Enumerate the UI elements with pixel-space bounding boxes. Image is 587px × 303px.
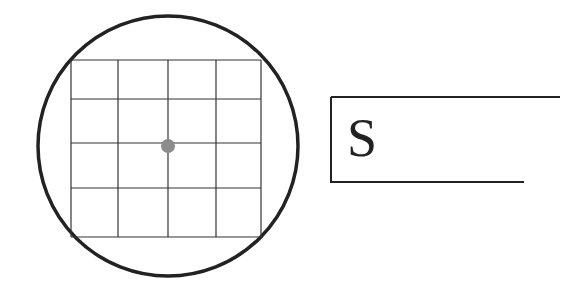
label-s: S xyxy=(347,108,377,168)
diagram-canvas xyxy=(0,0,587,303)
center-dot xyxy=(161,139,175,153)
